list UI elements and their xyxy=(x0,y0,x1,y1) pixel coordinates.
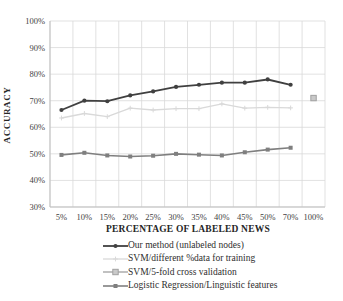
legend-label: SVM/different %data for training xyxy=(128,254,255,264)
legend-marker-plus-icon xyxy=(103,254,128,264)
legend: Our method (unlabeled nodes)SVM/differen… xyxy=(103,239,277,293)
data-point-our-method-unlabeled-nodes-25 xyxy=(151,89,155,93)
x-tick-label-5: 5% xyxy=(56,212,67,222)
data-point-logistic-regression-linguistic-features-20 xyxy=(128,155,132,159)
y-tick-label-90: 90% xyxy=(29,43,45,53)
legend-marker-shape xyxy=(113,257,118,262)
data-point-our-method-unlabeled-nodes-45 xyxy=(243,81,247,85)
y-tick-label-100: 100% xyxy=(25,16,45,26)
legend-marker-shape xyxy=(113,244,117,248)
x-tick-label-10: 10% xyxy=(77,212,93,222)
data-point-our-method-unlabeled-nodes-40 xyxy=(220,81,224,85)
x-tick-label-50: 50% xyxy=(260,212,276,222)
legend-marker-circle-icon xyxy=(103,241,128,251)
data-point-logistic-regression-linguistic-features-10 xyxy=(82,151,86,155)
data-point-svm-different-data-for-training-35 xyxy=(197,106,202,111)
data-point-our-method-unlabeled-nodes-35 xyxy=(197,83,201,87)
data-point-logistic-regression-linguistic-features-45 xyxy=(243,150,247,154)
legend-marker-square-icon xyxy=(103,281,128,291)
x-tick-label-15: 15% xyxy=(99,212,115,222)
y-tick-label-30: 30% xyxy=(29,202,45,212)
x-axis-title: PERCENTAGE OF LABELED NEWS xyxy=(50,224,326,234)
data-point-our-method-unlabeled-nodes-20 xyxy=(128,93,132,97)
accuracy-line-chart-figure: 100%90%80%70%60%50%40%30%5%10%15%20%25%3… xyxy=(0,0,343,301)
x-tick-label-20: 20% xyxy=(122,212,138,222)
data-point-logistic-regression-linguistic-features-5 xyxy=(59,153,63,157)
data-point-logistic-regression-linguistic-features-50 xyxy=(266,148,270,152)
x-tick-label-45: 45% xyxy=(237,212,253,222)
y-tick-label-70: 70% xyxy=(29,96,45,106)
data-point-our-method-unlabeled-nodes-30 xyxy=(174,85,178,89)
data-point-our-method-unlabeled-nodes-15 xyxy=(105,99,109,103)
data-point-svm-different-data-for-training-50 xyxy=(265,105,270,110)
data-point-our-method-unlabeled-nodes-10 xyxy=(82,99,86,103)
data-point-logistic-regression-linguistic-features-15 xyxy=(105,153,109,157)
x-tick-label-25: 25% xyxy=(145,212,161,222)
data-point-logistic-regression-linguistic-features-70 xyxy=(289,146,293,150)
legend-item-our-method-unlabeled-nodes: Our method (unlabeled nodes) xyxy=(103,239,277,252)
y-tick-label-80: 80% xyxy=(29,69,45,79)
data-point-svm-5-fold-cross-validation-100 xyxy=(311,95,316,100)
x-tick-label-70: 70% xyxy=(283,212,299,222)
legend-marker-shape xyxy=(113,270,118,275)
x-tick-label-100: 100% xyxy=(304,212,324,222)
y-axis-title: ACCURACY xyxy=(0,109,62,121)
x-tick-label-35: 35% xyxy=(191,212,207,222)
legend-item-svm-different-data-for-training: SVM/different %data for training xyxy=(103,252,277,265)
y-tick-label-40: 40% xyxy=(29,175,45,185)
legend-label: SVM/5-fold cross validation xyxy=(128,268,237,278)
legend-item-svm-5-fold-cross-validation: SVM/5-fold cross validation xyxy=(103,266,277,279)
data-point-svm-different-data-for-training-10 xyxy=(82,111,87,116)
data-point-svm-different-data-for-training-25 xyxy=(151,108,156,113)
legend-item-logistic-regression-linguistic-features: Logistic Regression/Linguistic features xyxy=(103,279,277,292)
data-point-svm-different-data-for-training-30 xyxy=(174,106,179,111)
data-point-svm-different-data-for-training-40 xyxy=(219,102,224,107)
data-point-logistic-regression-linguistic-features-35 xyxy=(197,153,201,157)
data-point-our-method-unlabeled-nodes-70 xyxy=(289,83,293,87)
x-tick-label-40: 40% xyxy=(214,212,230,222)
data-point-svm-different-data-for-training-70 xyxy=(288,105,293,110)
data-point-svm-different-data-for-training-45 xyxy=(242,106,247,111)
legend-marker-shape xyxy=(114,284,118,288)
x-tick-label-30: 30% xyxy=(168,212,184,222)
data-point-logistic-regression-linguistic-features-25 xyxy=(151,154,155,158)
data-point-our-method-unlabeled-nodes-50 xyxy=(266,77,270,81)
legend-label: Our method (unlabeled nodes) xyxy=(128,241,244,251)
y-tick-label-60: 60% xyxy=(29,122,45,132)
data-point-svm-different-data-for-training-15 xyxy=(105,114,110,119)
data-point-svm-different-data-for-training-20 xyxy=(128,106,133,111)
data-point-logistic-regression-linguistic-features-30 xyxy=(174,152,178,156)
data-point-logistic-regression-linguistic-features-40 xyxy=(220,153,224,157)
legend-marker-square-open-icon xyxy=(103,267,128,277)
legend-label: Logistic Regression/Linguistic features xyxy=(128,281,277,291)
y-tick-label-50: 50% xyxy=(29,149,45,159)
